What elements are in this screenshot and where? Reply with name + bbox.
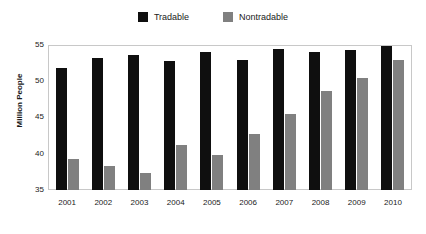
bar-nontradable (249, 134, 260, 190)
bar-group (85, 46, 121, 190)
bar-nontradable (321, 91, 332, 190)
bar-nontradable (357, 78, 368, 190)
x-tick-label: 2008 (302, 198, 338, 208)
legend-item-tradable: Tradable (138, 12, 189, 22)
x-tick-label: 2004 (158, 198, 194, 208)
x-tick-label: 2007 (266, 198, 302, 208)
filled-square-icon (223, 12, 233, 22)
bar-nontradable (285, 114, 296, 190)
bar-group (339, 46, 375, 190)
x-tick-label: 2009 (339, 198, 375, 208)
bar-group (302, 46, 338, 190)
bar-tradable (164, 61, 175, 190)
legend-label-tradable: Tradable (154, 12, 189, 22)
x-tick-label: 2002 (85, 198, 121, 208)
x-tick-label: 2005 (194, 198, 230, 208)
x-tick-label: 2001 (49, 198, 85, 208)
bar-nontradable (176, 145, 187, 190)
filled-square-icon (138, 12, 148, 22)
bar-tradable (309, 52, 320, 190)
x-axis-tick-labels: 2001200220032004200520062007200820092010 (49, 198, 411, 208)
bar-tradable (92, 58, 103, 190)
bar-group (49, 46, 85, 190)
bar-tradable (237, 60, 248, 190)
bar-nontradable (212, 155, 223, 190)
y-tick-label: 45 (22, 113, 44, 121)
bar-nontradable (68, 159, 79, 190)
x-tick-label: 2006 (230, 198, 266, 208)
x-tick-label: 2003 (121, 198, 157, 208)
bar-tradable (128, 55, 139, 190)
y-tick-label: 40 (22, 150, 44, 158)
y-tick-label: 50 (22, 77, 44, 85)
chart-legend: Tradable Nontradable (0, 12, 426, 22)
bar-nontradable (393, 60, 404, 190)
bar-tradable (381, 46, 392, 190)
y-tick-label: 55 (22, 41, 44, 49)
bar-tradable (56, 68, 67, 190)
y-tick-label: 35 (22, 186, 44, 194)
bar-groups (49, 46, 411, 190)
bar-group (158, 46, 194, 190)
bar-group (121, 46, 157, 190)
bar-nontradable (104, 166, 115, 190)
bar-group (375, 46, 411, 190)
x-tick-label: 2010 (375, 198, 411, 208)
bar-chart: Tradable Nontradable Million People 55 5… (0, 0, 426, 234)
bar-tradable (345, 50, 356, 190)
bar-nontradable (140, 173, 151, 190)
bar-group (194, 46, 230, 190)
legend-item-nontradable: Nontradable (223, 12, 288, 22)
y-axis-title: Million People (15, 56, 24, 146)
bar-tradable (200, 52, 211, 190)
bar-group (266, 46, 302, 190)
legend-label-nontradable: Nontradable (239, 12, 288, 22)
bar-tradable (273, 49, 284, 190)
bar-group (230, 46, 266, 190)
